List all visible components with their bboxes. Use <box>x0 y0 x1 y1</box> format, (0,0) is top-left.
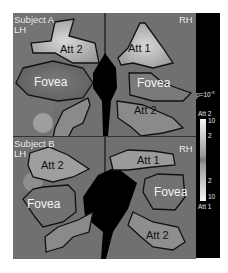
flatmap-figure: Subject A LH RH Att 2 Fovea Att 1 Fovea … <box>13 13 220 258</box>
left-hemisphere-label: LH <box>14 25 26 35</box>
colorbar-gradient <box>200 119 206 201</box>
panel-subject-b: Subject B LH RH Att 2 Fovea Att 1 Fovea … <box>13 136 196 259</box>
right-hemisphere-label: RH <box>179 144 193 154</box>
colorbar-tick: 2 <box>208 132 212 139</box>
roi-label-rh-att1: Att 1 <box>137 155 160 166</box>
p-value-exponent: -x <box>211 90 215 95</box>
roi-label-lh-fovea: Fovea <box>34 77 67 88</box>
colorbar-tick: 10 <box>208 117 215 124</box>
roi-label-rh-att1: Att 1 <box>128 43 151 54</box>
p-value-base: p=10 <box>196 91 211 98</box>
roi-label-lh-att2: Att 2 <box>41 160 64 171</box>
colorbar-tick: 10 <box>208 193 215 200</box>
colorbar-panel: p=10-x Att 2 10 2 2 10 Att 1 <box>196 13 220 258</box>
roi-label-lh-att2: Att 2 <box>60 44 83 55</box>
colorbar-top-label: Att 2 <box>198 110 211 117</box>
roi-label-lh-fovea: Fovea <box>27 199 60 210</box>
panel-subject-a: Subject A LH RH Att 2 Fovea Att 1 Fovea … <box>13 13 196 136</box>
right-hemisphere-label: RH <box>179 15 193 25</box>
roi-label-rh-att2: Att 2 <box>134 105 157 116</box>
left-hemisphere-label: LH <box>14 149 26 159</box>
p-value-label: p=10-x <box>196 90 214 98</box>
roi-label-rh-fovea: Fovea <box>154 187 187 198</box>
roi-label-rh-fovea: Fovea <box>137 78 170 89</box>
colorbar-tick: 2 <box>208 177 212 184</box>
roi-label-rh-att2: Att 2 <box>146 230 169 241</box>
colorbar-bottom-label: Att 1 <box>198 203 211 210</box>
